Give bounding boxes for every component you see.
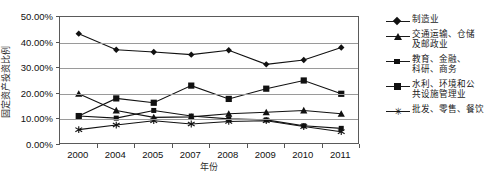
x-axis-title: 年份 xyxy=(59,160,359,173)
x-tick-label: 2010 xyxy=(292,149,313,160)
x-tick-label: 2005 xyxy=(142,149,163,160)
legend-item-4[interactable]: ✳批发、零售、餐饮 xyxy=(386,104,487,115)
legend-marker-icon xyxy=(386,18,410,26)
x-tick-mark xyxy=(247,144,248,148)
legend-label: 教育、金融、 科研、商务 xyxy=(412,54,487,75)
legend-marker-icon xyxy=(386,58,410,66)
y-tick-label: 10.00% xyxy=(21,113,53,124)
x-tick-mark xyxy=(284,144,285,148)
data-point xyxy=(189,114,194,119)
y-axis-tick-labels: 0.00%10.00%20.00%30.00%40.00%50.00% xyxy=(4,0,56,176)
legend-label: 交通运输、仓储 及邮政业 xyxy=(412,29,487,50)
data-point xyxy=(301,77,307,83)
series-lines xyxy=(60,17,360,145)
data-point xyxy=(226,47,232,53)
data-point xyxy=(188,83,194,89)
legend-item-0[interactable]: 制造业 xyxy=(386,14,487,25)
data-point xyxy=(188,51,194,57)
x-tick-mark xyxy=(172,144,173,148)
plot-area xyxy=(59,16,359,144)
data-point xyxy=(113,95,119,101)
data-point xyxy=(151,49,157,55)
legend-marker-icon: ✳ xyxy=(386,108,410,116)
legend-label: 制造业 xyxy=(412,14,487,25)
x-tick-mark xyxy=(97,144,98,148)
y-tick-label: 50.00% xyxy=(21,11,53,22)
y-tick-mark xyxy=(56,118,60,119)
data-point xyxy=(151,108,156,113)
x-tick-mark xyxy=(359,144,360,148)
data-point xyxy=(76,113,82,119)
y-tick-label: 0.00% xyxy=(26,139,53,150)
legend-marker-icon xyxy=(386,83,410,91)
y-tick-label: 30.00% xyxy=(21,62,53,73)
data-point xyxy=(263,86,269,92)
y-tick-label: 40.00% xyxy=(21,36,53,47)
y-tick-label: 20.00% xyxy=(21,87,53,98)
legend-label: 批发、零售、餐饮 xyxy=(412,104,487,115)
data-point xyxy=(151,100,157,106)
legend-marker-icon xyxy=(386,33,410,41)
legend-item-3[interactable]: 水利、环境和公 共设施管理业 xyxy=(386,79,487,100)
gridline xyxy=(60,94,358,95)
x-tick-mark xyxy=(134,144,135,148)
legend-item-1[interactable]: 交通运输、仓储 及邮政业 xyxy=(386,29,487,50)
gridline xyxy=(60,119,358,120)
x-tick-mark xyxy=(322,144,323,148)
series-0 xyxy=(76,30,345,67)
y-tick-mark xyxy=(56,67,60,68)
legend-item-2[interactable]: 教育、金融、 科研、商务 xyxy=(386,54,487,75)
y-tick-mark xyxy=(56,16,60,17)
data-point xyxy=(113,47,119,53)
y-tick-mark xyxy=(56,144,60,145)
data-point xyxy=(338,44,344,50)
x-tick-label: 2004 xyxy=(105,149,126,160)
x-tick-label: 2000 xyxy=(67,149,88,160)
x-tick-label: 2007 xyxy=(180,149,201,160)
x-tick-label: 2011 xyxy=(330,149,350,160)
y-tick-mark xyxy=(56,93,60,94)
data-point xyxy=(263,61,269,67)
chart-figure: 固定资产投资比例 0.00%10.00%20.00%30.00%40.00%50… xyxy=(0,0,487,176)
gridline xyxy=(60,68,358,69)
data-point xyxy=(113,107,120,114)
x-tick-mark xyxy=(209,144,210,148)
chart-legend: 制造业交通运输、仓储 及邮政业教育、金融、 科研、商务水利、环境和公 共设施管理… xyxy=(386,14,487,118)
x-tick-label: 2009 xyxy=(255,149,276,160)
y-tick-mark xyxy=(56,42,60,43)
legend-label: 水利、环境和公 共设施管理业 xyxy=(412,79,487,100)
gridline xyxy=(60,43,358,44)
x-tick-label: 2008 xyxy=(217,149,238,160)
data-point xyxy=(76,30,82,36)
data-point xyxy=(226,96,232,102)
data-point xyxy=(301,57,307,63)
